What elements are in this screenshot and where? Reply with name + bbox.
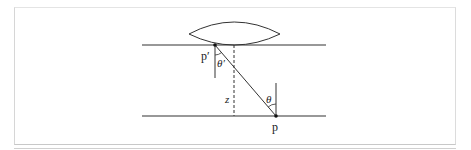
label-theta-prime: θ′	[217, 57, 225, 69]
label-z: z	[224, 93, 230, 105]
label-p-prime: p′	[201, 49, 210, 63]
lens-shape	[189, 22, 280, 45]
label-p: p	[272, 120, 278, 134]
point-p	[274, 114, 278, 118]
theta-prime-arc	[215, 53, 222, 55]
optics-diagram: p′ θ′ z θ p	[0, 0, 471, 150]
point-p-prime	[213, 43, 217, 47]
ray-line	[215, 45, 276, 116]
label-theta: θ	[266, 93, 272, 105]
